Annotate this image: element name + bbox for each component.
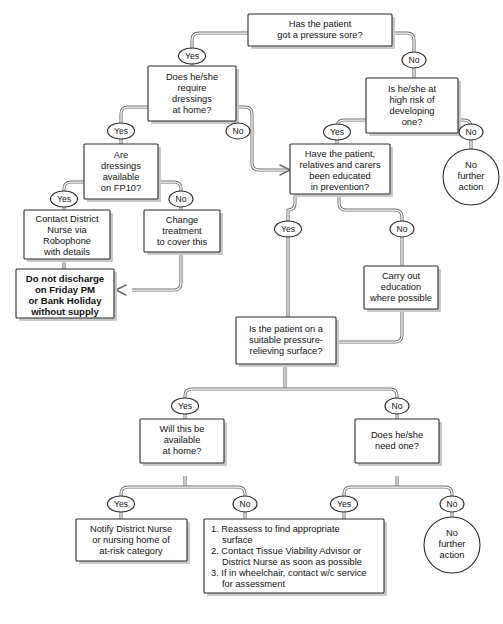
- edge-label-educated-no: No: [390, 221, 414, 237]
- edge-label-highrisk-no-text: No: [466, 127, 477, 137]
- node-do-not-discharge[interactable]: Do not discharge on Friday PM or Bank Ho…: [16, 269, 117, 321]
- edge-label-sore-yes-text: Yes: [185, 51, 199, 61]
- node-no-further-action-lower[interactable]: No further action: [424, 517, 480, 573]
- node-need-one-line2: need one?: [375, 441, 419, 451]
- node-suitable-surface-line2: suitable pressure-: [249, 335, 323, 345]
- node-reassess-steps-line6: for assessment: [222, 579, 285, 589]
- node-require-dressings-home-line1: Does he/she: [166, 72, 218, 82]
- node-suitable-surface-line3: relieving surface?: [250, 346, 323, 356]
- node-carry-out-education-line2: education: [381, 282, 421, 292]
- edge-label-needone-yes: Yes: [331, 496, 358, 512]
- node-no-further-action-upper-line2: further: [458, 171, 485, 181]
- node-notify-district-nurse[interactable]: Notify District Nurse or nursing home of…: [76, 519, 190, 564]
- node-available-at-home[interactable]: Will this be available at home?: [140, 419, 227, 466]
- edge-label-educated-yes: Yes: [275, 221, 302, 237]
- node-change-treatment-line1: Change: [166, 215, 199, 225]
- node-no-further-action-lower-line3: action: [440, 550, 465, 560]
- arrowhead-to-nodischarge: [116, 285, 126, 295]
- edge-label-fp10-no-text: No: [176, 194, 187, 204]
- node-reassess-steps-line1: 1. Reassess to find appropriate: [211, 524, 340, 534]
- edge-surface-no: [285, 389, 397, 419]
- edge-label-availhome-yes-text: Yes: [114, 499, 128, 509]
- node-do-not-discharge-line4: without supply: [30, 306, 99, 317]
- node-change-treatment-line2: treatment: [162, 226, 202, 236]
- node-require-dressings-home-line2: require: [178, 83, 207, 93]
- node-high-risk-developing-line2: high risk of: [390, 95, 435, 105]
- edge-changetrt-to-nodischarge-inner: [132, 252, 181, 290]
- node-layer: Has the patient got a pressure sore? Doe…: [16, 14, 499, 596]
- node-dressings-available-fp10[interactable]: Are dressings available on FP10?: [84, 144, 161, 202]
- edge-educated-yes: [288, 194, 295, 317]
- edge-label-dressings-yes-text: Yes: [114, 126, 128, 136]
- edge-carryout-to-surface-inner: [336, 309, 402, 342]
- edge-label-surface-yes-text: Yes: [178, 401, 192, 411]
- node-change-treatment[interactable]: Change treatment to cover this: [144, 210, 223, 255]
- node-dressings-available-fp10-line4: on FP10?: [101, 183, 141, 193]
- node-carry-out-education-line1: Carry out: [382, 271, 421, 281]
- node-need-one-line1: Does he/she: [371, 430, 423, 440]
- node-educated-in-prevention[interactable]: Have the patient, relatives and carers b…: [290, 144, 393, 197]
- node-dressings-available-fp10-line3: available: [103, 172, 140, 182]
- edge-label-highrisk-yes: Yes: [324, 124, 351, 140]
- node-change-treatment-line3: to cover this: [157, 237, 207, 247]
- node-require-dressings-home[interactable]: Does he/she require dressings at home?: [148, 66, 239, 124]
- edge-label-sore-no: No: [402, 52, 426, 68]
- node-contact-district-nurse[interactable]: Contact District Nurse via Robophone wit…: [24, 210, 113, 262]
- node-educated-in-prevention-line1: Have the patient,: [305, 149, 375, 159]
- edge-label-dressings-no: No: [226, 123, 250, 139]
- edge-label-availhome-yes: Yes: [108, 496, 135, 512]
- node-do-not-discharge-line2: on Friday PM: [35, 284, 95, 295]
- node-contact-district-nurse-line3: Robophone: [43, 236, 91, 246]
- edge-label-highrisk-yes-text: Yes: [330, 127, 344, 137]
- node-no-further-action-upper-line1: No: [465, 160, 477, 170]
- node-has-pressure-sore-line2: got a pressure sore?: [277, 30, 362, 40]
- node-high-risk-developing-line3: developing: [390, 106, 435, 116]
- edge-label-educated-no-text: No: [397, 224, 408, 234]
- edge-label-surface-yes: Yes: [172, 398, 199, 414]
- edge-label-surface-no: No: [385, 398, 409, 414]
- node-has-pressure-sore-line1: Has the patient: [289, 19, 352, 29]
- edge-label-fp10-yes: Yes: [51, 191, 78, 207]
- node-available-at-home-line3: at home?: [163, 446, 202, 456]
- edge-label-needone-yes-text: Yes: [337, 499, 351, 509]
- edge-surface-yes-inner: [185, 389, 285, 419]
- edge-label-fp10-no: No: [169, 191, 193, 207]
- node-suitable-surface-line1: Is the patient on a: [249, 324, 324, 334]
- flowchart-canvas: Has the patient got a pressure sore? Doe…: [0, 0, 503, 624]
- node-high-risk-developing-line4: one?: [402, 117, 423, 127]
- node-carry-out-education[interactable]: Carry out education where possible: [364, 266, 441, 312]
- node-educated-in-prevention-line3: been educated: [309, 171, 371, 181]
- edge-surface-yes: [185, 389, 285, 419]
- node-notify-district-nurse-line3: at-risk category: [99, 546, 163, 556]
- node-high-risk-developing[interactable]: Is he/she at high risk of developing one…: [366, 78, 461, 136]
- edge-surface-no-inner: [285, 389, 397, 419]
- edge-label-availhome-no-text: No: [240, 499, 251, 509]
- edge-label-highrisk-no: No: [459, 124, 483, 140]
- node-do-not-discharge-line3: or Bank Holiday: [28, 295, 102, 306]
- node-available-at-home-line2: available: [164, 435, 201, 445]
- node-notify-district-nurse-line1: Notify District Nurse: [90, 524, 172, 534]
- node-no-further-action-upper[interactable]: No further action: [443, 149, 499, 205]
- edge-label-dressings-yes: Yes: [108, 123, 135, 139]
- node-notify-district-nurse-line2: or nursing home of: [92, 535, 170, 545]
- edge-label-needone-no: No: [440, 496, 464, 512]
- node-suitable-pressure-relieving-surface[interactable]: Is the patient on a suitable pressure- r…: [236, 317, 339, 367]
- edge-label-dressings-no-text: No: [233, 126, 244, 136]
- node-no-further-action-lower-line2: further: [439, 539, 466, 549]
- node-reassess-steps-line3: 2. Contact Tissue Viability Advisor or: [211, 546, 361, 556]
- edge-label-sore-yes: Yes: [179, 48, 206, 64]
- node-has-pressure-sore[interactable]: Has the patient got a pressure sore?: [248, 14, 395, 49]
- node-reassess-steps-line5: 3. If in wheelchair, contact w/c service: [211, 568, 367, 578]
- node-need-one[interactable]: Does he/she need one?: [355, 419, 442, 466]
- node-reassess-steps[interactable]: 1. Reassess to find appropriate surface …: [204, 519, 387, 596]
- node-available-at-home-line1: Will this be: [160, 424, 205, 434]
- edge-carryout-to-surface: [336, 309, 402, 342]
- node-require-dressings-home-line3: dressings: [172, 94, 212, 104]
- node-contact-district-nurse-line2: Nurse via: [47, 225, 87, 235]
- node-no-further-action-lower-line1: No: [446, 528, 458, 538]
- node-reassess-steps-line4: District Nurse as soon as possible: [222, 557, 362, 567]
- node-dressings-available-fp10-line2: dressings: [101, 161, 141, 171]
- node-do-not-discharge-line1: Do not discharge: [26, 273, 104, 284]
- node-educated-in-prevention-line2: relatives and carers: [299, 160, 380, 170]
- node-high-risk-developing-line1: Is he/she at: [388, 84, 436, 94]
